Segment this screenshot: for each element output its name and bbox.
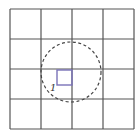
grid-lines <box>10 9 134 129</box>
dashed-circle <box>41 42 101 102</box>
grid-diagram: 1 <box>0 0 140 137</box>
small-square <box>57 70 72 85</box>
radius-label: 1 <box>50 82 56 93</box>
